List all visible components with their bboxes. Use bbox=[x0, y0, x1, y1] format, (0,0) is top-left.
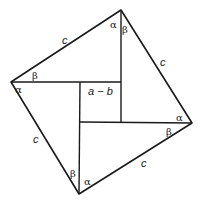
angle-alpha-top: α bbox=[110, 19, 117, 30]
side-label-c-top-right: c bbox=[160, 56, 166, 68]
angle-beta-right: β bbox=[166, 126, 172, 137]
leg-bottom-vertical bbox=[79, 82, 80, 194]
side-label-c-top-left: c bbox=[62, 34, 68, 46]
angle-alpha-bottom: α bbox=[84, 176, 91, 187]
angle-alpha-left: α bbox=[15, 84, 22, 95]
side-label-c-bottom-right: c bbox=[141, 157, 147, 169]
angle-beta-left: β bbox=[32, 70, 38, 81]
outer-square bbox=[11, 10, 192, 194]
angle-alpha-right: α bbox=[176, 112, 183, 123]
inner-square-label: a − b bbox=[88, 85, 113, 97]
angle-beta-bottom: β bbox=[70, 168, 76, 179]
angle-beta-top: β bbox=[122, 24, 128, 35]
side-label-c-bottom-left: c bbox=[33, 133, 39, 145]
pythagorean-diagram: a − b c c c c α β β α α β β α bbox=[0, 0, 202, 213]
